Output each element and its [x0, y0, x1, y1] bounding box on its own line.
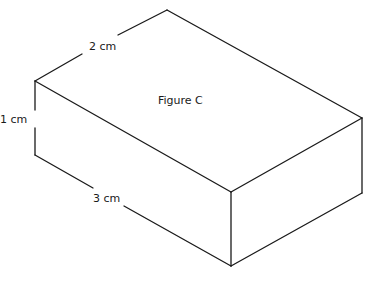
width-label: 2 cm: [89, 40, 116, 53]
edge-bottom-right: [231, 193, 362, 266]
figure-title: Figure C: [158, 94, 203, 107]
edge-bottom-left-length-b: [124, 206, 231, 266]
edge-bottom-left-length-a: [35, 155, 93, 188]
prism-diagram: 2 cm 1 cm 3 cm Figure C: [0, 0, 380, 283]
edge-top-left-back-width-b: [118, 10, 167, 35]
prism-edges: [35, 10, 362, 266]
length-label: 3 cm: [93, 192, 120, 205]
edge-top-front-right: [231, 118, 362, 192]
height-label: 1 cm: [0, 113, 27, 126]
edge-top-left-back-width-a: [35, 54, 82, 81]
